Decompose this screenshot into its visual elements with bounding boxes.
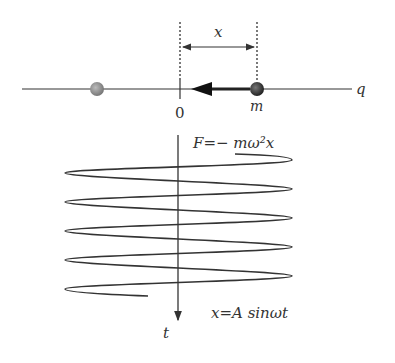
- equilibrium-ball: [90, 82, 104, 96]
- harmonic-oscillator-diagram: x q 0 m F=− mω²x t x=A sinωt: [0, 0, 395, 363]
- mass-label: m: [250, 98, 263, 114]
- origin-label: 0: [175, 104, 185, 122]
- force-arrowhead: [191, 82, 212, 96]
- motion-equation: x=A sinωt: [211, 304, 289, 322]
- q-axis-label: q: [356, 80, 366, 98]
- mass-ball: [250, 82, 264, 96]
- force-equation: F=− mω²x: [192, 134, 275, 152]
- distance-label: x: [214, 23, 223, 41]
- time-axis-label: t: [163, 324, 170, 342]
